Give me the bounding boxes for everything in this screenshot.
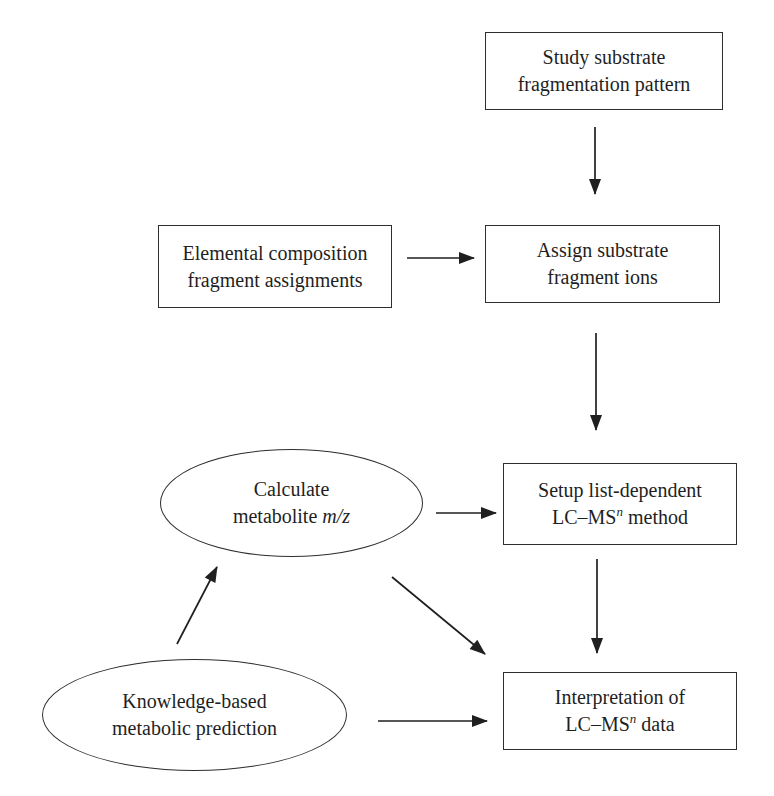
- arrow-calculate-to-interpretation: [392, 577, 485, 654]
- node-knowledge-based-prediction: Knowledge-based metabolic prediction: [42, 659, 347, 771]
- node-text-line: Elemental composition: [159, 240, 391, 267]
- node-text-line: fragment assignments: [159, 267, 391, 294]
- node-text-line: metabolic prediction: [43, 715, 346, 742]
- node-assign-substrate-fragment-ions: Assign substrate fragment ions: [485, 225, 720, 303]
- flowchart-canvas: Study substrate fragmentation pattern El…: [0, 0, 774, 796]
- node-calculate-metabolite-mz: Calculate metabolite m/z: [160, 449, 423, 557]
- node-text-segment: method: [623, 506, 688, 528]
- node-elemental-composition: Elemental composition fragment assignmen…: [158, 225, 392, 308]
- node-text-line: metabolite m/z: [161, 503, 422, 530]
- node-label: Setup list-dependent LC–MSn method: [504, 477, 736, 531]
- node-text-line: LC–MSn method: [504, 504, 736, 531]
- node-text-line: Knowledge-based: [43, 688, 346, 715]
- node-label: Interpretation of LC–MSn data: [504, 684, 736, 738]
- node-setup-list-dependent-method: Setup list-dependent LC–MSn method: [503, 463, 737, 545]
- node-text-line: Assign substrate: [486, 237, 719, 264]
- node-text-line: fragment ions: [486, 264, 719, 291]
- node-text-segment: metabolite: [233, 505, 322, 527]
- node-interpretation-of-data: Interpretation of LC–MSn data: [503, 672, 737, 750]
- node-text-line: LC–MSn data: [504, 711, 736, 738]
- node-label: Study substrate fragmentation pattern: [486, 44, 722, 98]
- node-study-substrate-fragmentation: Study substrate fragmentation pattern: [485, 32, 723, 110]
- italic-mz-text: m/z: [322, 505, 350, 527]
- node-text-segment: data: [636, 713, 674, 735]
- node-label: Elemental composition fragment assignmen…: [159, 240, 391, 294]
- node-text-segment: LC–MS: [552, 506, 616, 528]
- node-text-line: fragmentation pattern: [486, 71, 722, 98]
- node-label: Calculate metabolite m/z: [161, 476, 422, 530]
- arrow-knowledge-to-calculate: [177, 567, 217, 644]
- node-label: Knowledge-based metabolic prediction: [43, 688, 346, 742]
- node-label: Assign substrate fragment ions: [486, 237, 719, 291]
- node-text-line: Setup list-dependent: [504, 477, 736, 504]
- node-text-segment: LC–MS: [565, 713, 629, 735]
- node-text-line: Study substrate: [486, 44, 722, 71]
- node-text-line: Calculate: [161, 476, 422, 503]
- node-text-line: Interpretation of: [504, 684, 736, 711]
